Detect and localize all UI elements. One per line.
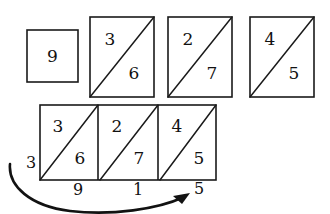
reading-direction-arrow xyxy=(10,164,190,213)
tile-thousands: 4 5 xyxy=(250,17,314,97)
lattice-cell-3-lower-digit: 5 xyxy=(194,148,205,168)
lattice-cell-3: 4 5 xyxy=(160,105,216,180)
tile-tens-upper-digit: 3 xyxy=(105,29,116,49)
assembled-lattice-strip: 3 6 2 7 4 5 3 9 1 5 xyxy=(26,105,216,199)
lattice-strip-border xyxy=(40,105,216,180)
figure-canvas: 9 3 6 2 7 4 5 xyxy=(0,0,330,214)
tile-thousands-upper-digit: 4 xyxy=(265,29,276,49)
lattice-cell-1: 3 6 xyxy=(40,105,98,180)
tile-hundreds-diagonal xyxy=(168,17,232,97)
tile-thousands-lower-digit: 5 xyxy=(289,63,300,83)
tile-hundreds: 2 7 xyxy=(168,17,232,97)
lattice-bottom-label-1: 9 xyxy=(73,180,83,199)
lattice-cell-2-lower-digit: 7 xyxy=(134,148,145,168)
tile-tens: 3 6 xyxy=(90,17,154,97)
lattice-bottom-label-3: 5 xyxy=(194,179,204,198)
lattice-cell-3-upper-digit: 4 xyxy=(172,116,183,136)
tile-hundreds-lower-digit: 7 xyxy=(207,63,218,83)
lattice-cell-2-upper-digit: 2 xyxy=(112,116,123,136)
tile-units: 9 xyxy=(27,30,78,82)
tile-hundreds-upper-digit: 2 xyxy=(183,29,194,49)
lattice-cell-1-diagonal xyxy=(40,105,98,180)
tile-thousands-diagonal xyxy=(250,17,314,97)
tile-tens-lower-digit: 6 xyxy=(129,63,140,83)
lattice-cell-1-lower-digit: 6 xyxy=(75,148,86,168)
lattice-cell-3-diagonal xyxy=(160,105,216,180)
lattice-left-label: 3 xyxy=(26,153,36,172)
reading-direction-arrow-head xyxy=(173,193,190,204)
tile-tens-diagonal xyxy=(90,17,154,97)
lattice-bottom-label-2: 1 xyxy=(133,180,143,199)
tile-units-digit: 9 xyxy=(47,46,58,66)
lattice-cell-2: 2 7 xyxy=(100,105,158,180)
partial-product-tiles: 9 3 6 2 7 4 5 xyxy=(27,17,314,97)
lattice-multiplication-figure: 9 3 6 2 7 4 5 xyxy=(0,0,330,214)
lattice-cell-1-upper-digit: 3 xyxy=(53,116,64,136)
lattice-cell-2-diagonal xyxy=(100,105,158,180)
